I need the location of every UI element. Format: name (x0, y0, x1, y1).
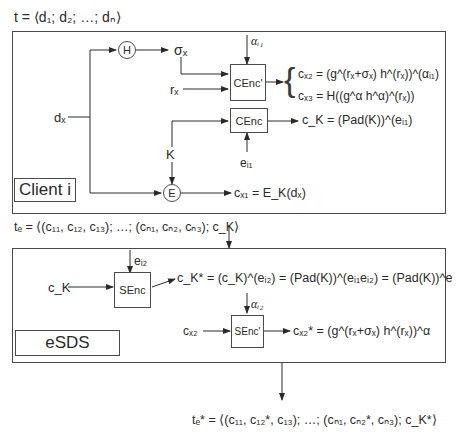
output-ck: c_K = (Pad(K))^(eᵢ₁) (302, 114, 412, 127)
senc-output: c_K* = (c_K)^(eᵢ₂) = (Pad(K))^(eᵢ₁eᵢ₂) =… (177, 272, 452, 285)
encrypt-node: E (163, 184, 181, 202)
key-k: K (166, 148, 175, 161)
cenc-block: CEnc (230, 108, 268, 133)
output-cx2: cₓ₂ = (g^(rₓ+σₓ) h^(rₓ))^(αᵢ₁) (298, 68, 439, 80)
alpha-i2: αᵢ₂ (251, 298, 263, 310)
hash-node: H (118, 41, 136, 59)
sigma-x: σₓ (174, 43, 187, 57)
e-i2: eᵢ₂ (134, 255, 147, 267)
cenc-prime-block: CEnc' (230, 64, 266, 101)
senc-block: SEnc (114, 272, 151, 308)
middle-formula: tₑ = ⟨(c₁₁, c₁₂, c₁₃); …; (cₙ₁, cₙ₂, cₙ₃… (14, 221, 239, 234)
esds-label: eSDS (15, 330, 120, 356)
bottom-formula: tₑ* = ⟨(c₁₁, c₁₂*, c₁₃); …; (cₙ₁, cₙ₂*, … (192, 414, 437, 427)
top-formula: t = ⟨d₁; d₂; …; dₙ⟩ (14, 10, 121, 24)
senc-input-ck: c_K (48, 281, 70, 294)
output-cx3: cₓ₃ = H((g^α h^α)^(rₓ)) (298, 90, 415, 102)
client-label: Client i (14, 178, 76, 202)
input-dx: dₓ (54, 111, 66, 124)
senc-prime-input: cₓ₂ (183, 325, 198, 337)
e-i1: eᵢ₁ (240, 157, 253, 169)
random-rx: rₓ (170, 83, 179, 96)
senc-prime-output: cₓ₂* = (g^(rₓ+σₓ) h^(rₓ))^α (293, 325, 430, 338)
output-cx1: cₓ₁ = E_K(dₓ) (234, 187, 306, 200)
alpha-i1: αᵢ₁ (251, 35, 263, 47)
senc-prime-block: SEnc' (231, 315, 264, 348)
brace-icon: { (284, 62, 295, 96)
